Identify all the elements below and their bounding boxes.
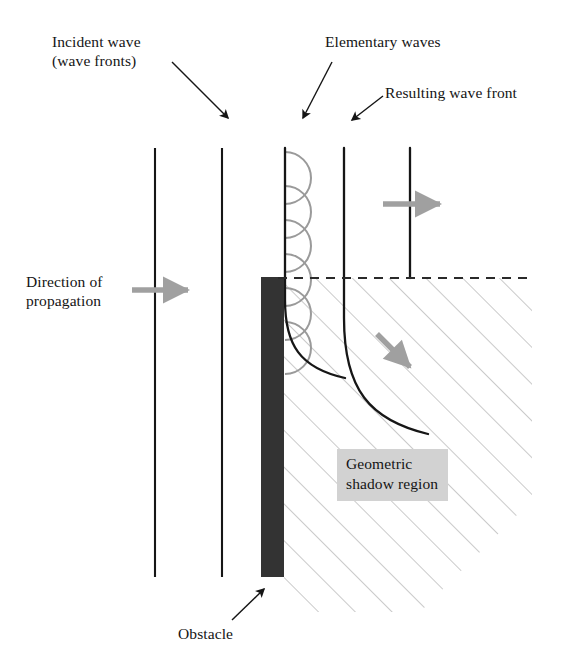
label-incident-wave: Incident wave (wave fronts) bbox=[52, 32, 141, 70]
leader-incident-wave bbox=[172, 62, 228, 118]
leader-resulting-wave-front bbox=[352, 96, 383, 120]
label-elementary-waves: Elementary waves bbox=[325, 32, 441, 51]
diffraction-diagram: Incident wave (wave fronts) Elementary w… bbox=[0, 0, 569, 663]
incident-wave-fronts bbox=[155, 148, 222, 577]
leader-elementary-waves bbox=[303, 62, 332, 118]
geometric-shadow-region bbox=[280, 274, 540, 619]
label-geometric-shadow-region: Geometric shadow region bbox=[337, 449, 448, 501]
label-resulting-wave-front: Resulting wave front bbox=[385, 83, 517, 102]
label-obstacle: Obstacle bbox=[178, 624, 233, 643]
label-direction-of-propagation: Direction of propagation bbox=[26, 272, 103, 310]
obstacle-bar bbox=[261, 277, 284, 577]
leader-obstacle bbox=[232, 589, 264, 620]
